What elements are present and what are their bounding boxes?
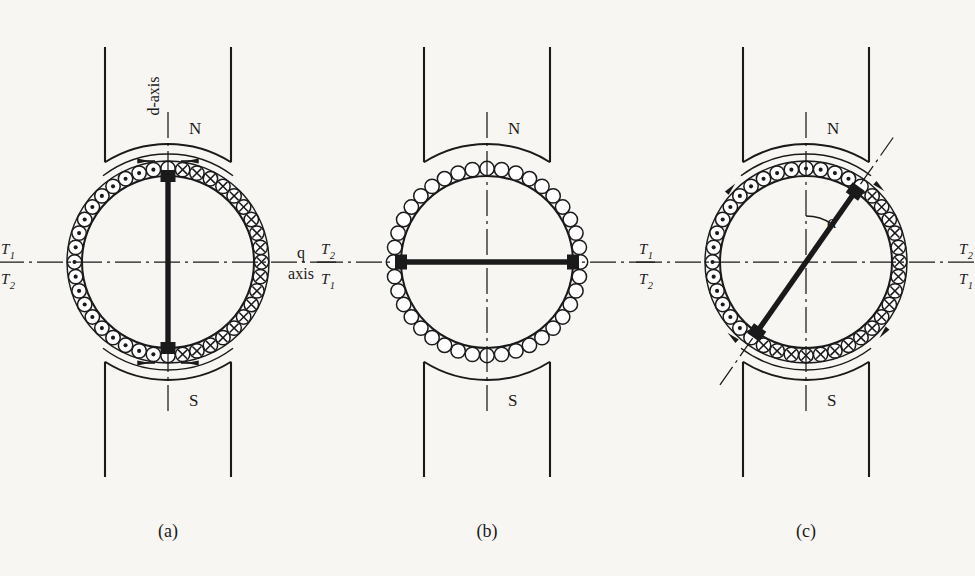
terminal-label-right-bottom: T1 [321, 271, 335, 291]
conductor [451, 166, 465, 180]
terminal-label-left-top: T1 [639, 241, 653, 261]
conductor [770, 166, 784, 180]
conductor-dot-icon [728, 315, 732, 319]
conductor-dot-icon [833, 171, 837, 175]
terminal-label-right-top: T2 [321, 241, 336, 261]
conductor [132, 344, 146, 358]
conductor [706, 269, 720, 283]
conductor-dot-icon [846, 177, 850, 181]
conductor-dot-icon [721, 302, 725, 306]
conductor-circle [563, 212, 577, 226]
pole-label-south: S [827, 391, 836, 410]
conductor-dot-icon [77, 289, 81, 293]
conductor-circle [391, 284, 405, 298]
panel-a: NS(a)d-axisT1T2T2T1 [0, 47, 338, 542]
pole-label-north: N [508, 119, 520, 138]
conductor [756, 171, 770, 185]
conductor-circle [509, 344, 523, 358]
conductor [813, 347, 827, 361]
conductor [710, 226, 724, 240]
conductor [569, 284, 583, 298]
pole-label-south: S [189, 391, 198, 410]
conductor [882, 212, 896, 226]
conductor [253, 240, 267, 254]
pole-label-north: N [827, 119, 839, 138]
conductor-dot-icon [151, 168, 155, 172]
terminal-label-right-top-subscript: 2 [968, 250, 974, 261]
terminal-label-right-top: T2 [959, 241, 974, 261]
terminal-label-right-bottom: T1 [959, 271, 973, 291]
conductor-dot-icon [74, 275, 78, 279]
conductor-dot-icon [715, 289, 719, 293]
armature-reaction-figure: NS(a)d-axisT1T2T2T1NS(b)qaxisNS(c)αT1T2T… [0, 0, 975, 576]
conductor [387, 240, 401, 254]
conductor-dot-icon [819, 168, 823, 172]
conductor [494, 162, 508, 176]
conductor-circle [465, 162, 479, 176]
conductor-dot-icon [111, 336, 115, 340]
conductor [706, 240, 720, 254]
conductor [132, 166, 146, 180]
conductor [68, 269, 82, 283]
conductor-dot-icon [111, 184, 115, 188]
terminal-label-left-top: T1 [1, 241, 15, 261]
rotation-arrow-head [879, 327, 889, 338]
conductor-dot-icon [137, 349, 141, 353]
conductor-dot-icon [712, 275, 716, 279]
conductor [813, 162, 827, 176]
conductor [72, 226, 86, 240]
figure-sheet: NS(a)d-axisT1T2T2T1NS(b)qaxisNS(c)αT1T2T… [0, 0, 975, 576]
conductor-dot-icon [90, 315, 94, 319]
conductor-circle [569, 226, 583, 240]
terminal-label-left-top-subscript: 1 [648, 250, 653, 261]
conductor [146, 162, 160, 176]
conductor [828, 166, 842, 180]
conductor-dot-icon [715, 231, 719, 235]
conductor-circle [569, 284, 583, 298]
conductor [891, 269, 905, 283]
conductor-dot-icon [151, 352, 155, 356]
conductor [509, 166, 523, 180]
conductor-circle [387, 269, 401, 283]
conductor [465, 162, 479, 176]
conductor [770, 344, 784, 358]
conductor [203, 338, 217, 352]
alpha-angle-label: α [827, 211, 838, 232]
conductor [891, 240, 905, 254]
terminal-label-right-top-subscript: 2 [330, 250, 336, 261]
terminal-label-right-bottom-subscript: 1 [968, 280, 973, 291]
conductor [175, 162, 189, 176]
conductor [77, 297, 91, 311]
conductor-circle [437, 171, 451, 185]
brush-block [161, 342, 176, 354]
terminal-label-right-bottom-subscript: 1 [330, 280, 335, 291]
conductor [784, 162, 798, 176]
conductor [244, 212, 258, 226]
q-axis-label-line1: q [297, 244, 305, 262]
conductor-dot-icon [83, 218, 87, 222]
terminal-label-left-bottom: T2 [1, 271, 16, 291]
conductor [190, 166, 204, 180]
conductor-dot-icon [124, 343, 128, 347]
conductor [146, 347, 160, 361]
panel-caption: (b) [477, 521, 498, 542]
conductor [72, 284, 86, 298]
conductor [387, 269, 401, 283]
conductor [68, 240, 82, 254]
conductor-circle [572, 269, 586, 283]
conductor [118, 171, 132, 185]
conductor-dot-icon [90, 205, 94, 209]
terminal-label-left-top-subscript: 1 [10, 250, 15, 261]
conductor-circle [522, 338, 536, 352]
brush-block [161, 170, 176, 182]
conductor [522, 338, 536, 352]
conductor [888, 226, 902, 240]
conductor-circle [451, 344, 465, 358]
brush-block [395, 255, 407, 270]
conductor-dot-icon [738, 326, 742, 330]
conductor-dot-icon [721, 218, 725, 222]
conductor-dot-icon [712, 245, 716, 249]
pole-label-north: N [189, 119, 201, 138]
panel-caption: (a) [158, 521, 178, 542]
conductor [888, 284, 902, 298]
